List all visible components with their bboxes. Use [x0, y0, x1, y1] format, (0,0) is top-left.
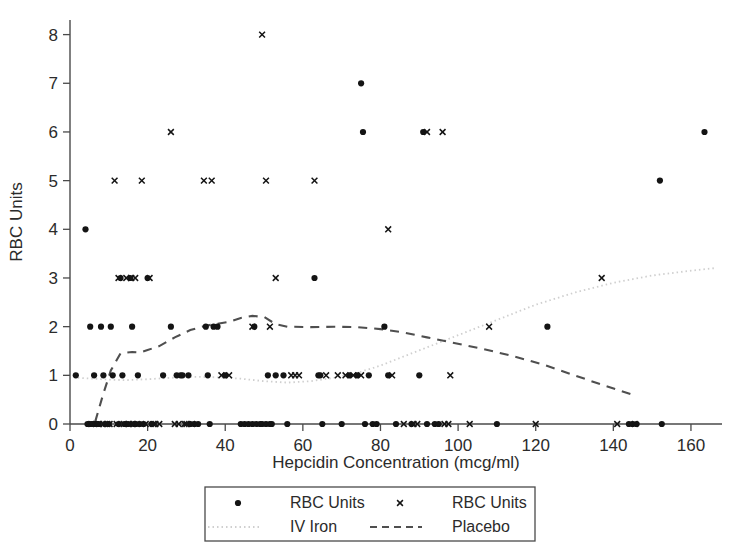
data-point-x — [168, 129, 174, 135]
data-point-dot — [436, 421, 442, 427]
data-point-dot — [374, 421, 380, 427]
data-point-dot — [284, 421, 290, 427]
x-axis-title: Hepcidin Concentration (mcg/ml) — [272, 453, 520, 472]
data-point-x — [312, 178, 318, 184]
data-point-x — [259, 32, 265, 38]
data-point-dot — [207, 421, 213, 427]
axis-frame — [70, 20, 722, 424]
y-tick-label: 1 — [49, 366, 58, 385]
y-tick-label: 6 — [49, 123, 58, 142]
data-point-dot — [311, 275, 317, 281]
data-point-dot — [319, 421, 325, 427]
x-tick-label: 140 — [599, 436, 627, 455]
data-point-dot — [659, 421, 665, 427]
data-point-dot — [273, 372, 279, 378]
data-point-dot — [129, 324, 135, 330]
legend-label: RBC Units — [452, 494, 527, 511]
data-point-x — [273, 275, 279, 281]
data-point-x — [599, 275, 605, 281]
data-point-dot — [280, 372, 286, 378]
data-point-dot — [358, 80, 364, 86]
data-point-dot — [100, 372, 106, 378]
data-point-dot — [416, 372, 422, 378]
data-point-dot — [269, 421, 275, 427]
legend-label: RBC Units — [290, 494, 365, 511]
data-point-dot — [317, 372, 323, 378]
data-point-x — [335, 372, 341, 378]
y-tick-label: 8 — [49, 26, 58, 45]
chart-legend: RBC UnitsRBC UnitsIV IronPlacebo — [205, 487, 535, 541]
data-point-x — [209, 178, 215, 184]
data-point-dot — [381, 324, 387, 330]
data-point-x — [447, 372, 453, 378]
data-point-x — [201, 178, 207, 184]
data-point-dot — [265, 372, 271, 378]
data-point-dot — [179, 372, 185, 378]
data-point-dot — [393, 421, 399, 427]
data-point-x — [112, 178, 118, 184]
data-point-dot — [98, 324, 104, 330]
data-point-dot — [195, 421, 201, 427]
data-point-dot — [214, 324, 220, 330]
x-axis-ticks: 020406080100120140160 — [65, 424, 705, 455]
data-points-layer — [73, 32, 708, 427]
data-point-dot — [168, 324, 174, 330]
data-point-dot — [205, 372, 211, 378]
data-point-dot — [203, 324, 209, 330]
data-point-dot — [82, 226, 88, 232]
data-point-dot — [91, 372, 97, 378]
y-tick-label: 5 — [49, 172, 58, 191]
x-tick-label: 120 — [522, 436, 550, 455]
legend-marker-dot — [235, 500, 241, 506]
y-axis-ticks: 012345678 — [49, 26, 70, 434]
x-tick-label: 20 — [138, 436, 157, 455]
data-point-x — [139, 178, 145, 184]
y-tick-label: 4 — [49, 220, 58, 239]
legend-label: IV Iron — [290, 518, 337, 535]
data-point-x — [385, 226, 391, 232]
y-tick-label: 0 — [49, 415, 58, 434]
y-tick-label: 3 — [49, 269, 58, 288]
data-point-dot — [366, 372, 372, 378]
y-axis-title: RBC Units — [7, 182, 26, 261]
data-point-dot — [185, 372, 191, 378]
data-point-x — [296, 372, 302, 378]
data-point-dot — [494, 421, 500, 427]
trend-line-placebo — [95, 316, 633, 422]
data-point-dot — [160, 372, 166, 378]
data-point-x — [323, 372, 329, 378]
data-point-dot — [362, 421, 368, 427]
x-tick-label: 40 — [216, 436, 235, 455]
data-point-dot — [544, 324, 550, 330]
rbc-units-vs-hepcidin-scatter-chart: 012345678 020406080100120140160 RBC Unit… — [0, 0, 732, 546]
legend-label: Placebo — [452, 518, 510, 535]
data-point-dot — [339, 421, 345, 427]
y-tick-label: 7 — [49, 74, 58, 93]
data-point-x — [263, 178, 269, 184]
data-point-dot — [657, 178, 663, 184]
data-point-dot — [135, 372, 141, 378]
data-point-x — [267, 324, 273, 330]
data-point-x — [486, 324, 492, 330]
data-point-dot — [108, 324, 114, 330]
data-point-dot — [73, 372, 79, 378]
chart-canvas: 012345678 020406080100120140160 RBC Unit… — [0, 0, 732, 546]
data-point-dot — [110, 372, 116, 378]
trend-lines-layer — [78, 268, 714, 421]
data-point-dot — [701, 129, 707, 135]
data-point-dot — [424, 421, 430, 427]
x-tick-label: 0 — [65, 436, 74, 455]
data-point-dot — [360, 129, 366, 135]
data-point-dot — [119, 372, 125, 378]
data-point-x — [440, 129, 446, 135]
data-point-dot — [87, 324, 93, 330]
y-tick-label: 2 — [49, 318, 58, 337]
x-tick-label: 160 — [677, 436, 705, 455]
